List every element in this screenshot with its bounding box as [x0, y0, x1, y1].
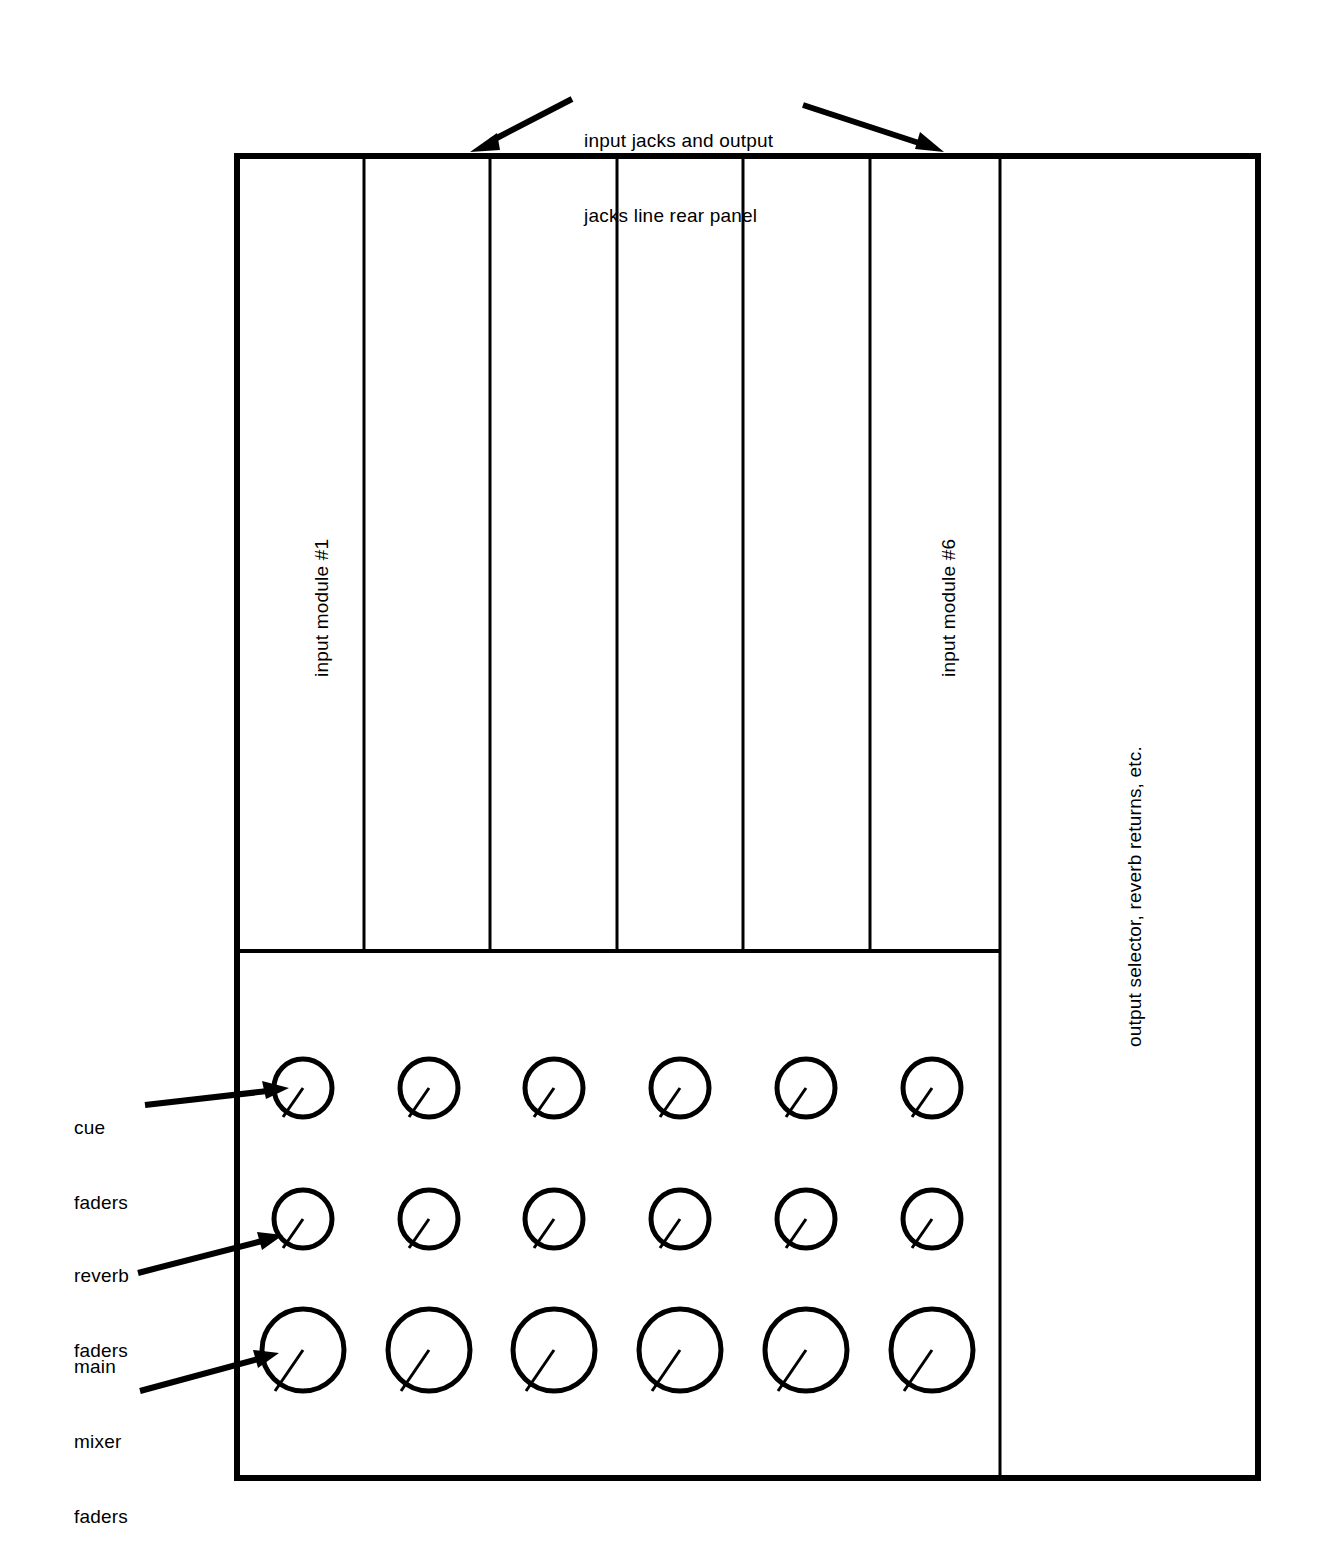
knob-reverb-1[interactable]: [274, 1190, 332, 1248]
main-mixer-faders-label-line-2: mixer: [74, 1429, 128, 1454]
knob-cue-3[interactable]: [525, 1059, 583, 1117]
main-mixer-faders-label-line-1: main: [74, 1354, 128, 1379]
console-outer-panel: [237, 156, 1258, 1478]
cue-fader-row: [274, 1059, 961, 1117]
left-callout-arrows: [138, 1081, 289, 1391]
main-arrow-shaft: [140, 1359, 258, 1391]
knob-cue-4[interactable]: [651, 1059, 709, 1117]
top-arrow-right-head: [915, 132, 944, 152]
mixer-panel-diagram: input jacks and output jacks line rear p…: [0, 0, 1319, 1563]
top-annotation: input jacks and output jacks line rear p…: [584, 78, 773, 278]
knob-cue-5[interactable]: [777, 1059, 835, 1117]
top-annotation-line-2: jacks line rear panel: [584, 203, 773, 228]
knob-reverb-5[interactable]: [777, 1190, 835, 1248]
knob-cue-6[interactable]: [903, 1059, 961, 1117]
top-arrow-left-head: [470, 133, 500, 152]
knob-cue-2[interactable]: [400, 1059, 458, 1117]
knob-main-5[interactable]: [765, 1309, 847, 1391]
main-mixer-faders-label-line-3: faders: [74, 1504, 128, 1529]
top-arrow-right-shaft: [803, 105, 922, 144]
cue-faders-label-line-1: cue: [74, 1115, 128, 1140]
cue-arrow-shaft: [145, 1091, 268, 1105]
knob-main-6[interactable]: [891, 1309, 973, 1391]
main-mixer-faders-label: main mixer faders: [74, 1304, 128, 1563]
output-section-label: output selector, reverb returns, etc.: [1124, 746, 1146, 1047]
input-module-1-label: input module #1: [311, 539, 333, 677]
reverb-fader-row: [274, 1190, 961, 1248]
knob-main-3[interactable]: [513, 1309, 595, 1391]
cue-faders-label-line-2: faders: [74, 1190, 128, 1215]
knob-reverb-6[interactable]: [903, 1190, 961, 1248]
knob-reverb-3[interactable]: [525, 1190, 583, 1248]
knob-reverb-2[interactable]: [400, 1190, 458, 1248]
knob-reverb-4[interactable]: [651, 1190, 709, 1248]
top-annotation-line-1: input jacks and output: [584, 128, 773, 153]
reverb-faders-label-line-1: reverb: [74, 1263, 129, 1288]
knob-main-2[interactable]: [388, 1309, 470, 1391]
reverb-arrow-shaft: [138, 1241, 262, 1273]
knob-main-1[interactable]: [262, 1309, 344, 1391]
main-mixer-fader-row: [262, 1309, 973, 1391]
top-arrow-left-shaft: [491, 99, 572, 141]
input-module-6-label: input module #6: [938, 539, 960, 677]
knob-main-4[interactable]: [639, 1309, 721, 1391]
